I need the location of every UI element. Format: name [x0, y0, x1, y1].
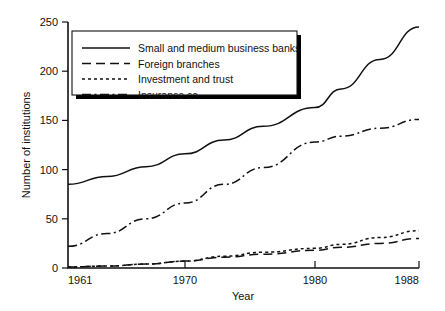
chart-figure: 050100150200250 1961197019801988 Number …	[0, 0, 445, 311]
y-tick-label: 0	[52, 262, 58, 274]
x-axis-ticks	[185, 261, 419, 268]
y-tick-label: 150	[40, 114, 58, 126]
x-axis-tick-labels: 1961197019801988	[68, 274, 419, 286]
legend-label-4: Insurance co.	[138, 89, 201, 101]
series-line-4	[68, 119, 419, 246]
y-axis-ticks	[62, 22, 68, 268]
legend-label-3: Investment and trust	[138, 73, 233, 85]
series-line-3	[68, 231, 419, 267]
y-tick-label: 100	[40, 164, 58, 176]
x-tick-label: 1980	[303, 274, 327, 286]
y-axis-tick-labels: 050100150200250	[40, 16, 58, 274]
y-tick-label: 200	[40, 65, 58, 77]
y-tick-label: 250	[40, 16, 58, 28]
legend-label-2: Foreign branches	[138, 58, 220, 70]
x-tick-label: 1988	[395, 274, 419, 286]
y-axis-title: Number of institutions	[20, 91, 32, 198]
line-chart-canvas: 050100150200250 1961197019801988 Number …	[0, 0, 445, 311]
x-tick-label: 1961	[68, 274, 92, 286]
series-line-2	[68, 238, 419, 267]
legend-label-1: Small and medium business banks	[138, 42, 300, 54]
y-tick-label: 50	[46, 213, 58, 225]
x-axis-title: Year	[232, 290, 255, 302]
chart-legend: Small and medium business banksForeign b…	[72, 31, 301, 101]
x-tick-label: 1970	[173, 274, 197, 286]
